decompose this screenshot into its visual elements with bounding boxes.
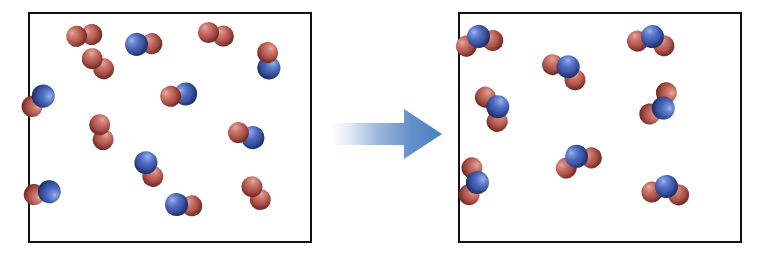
- reactants-box: [28, 12, 312, 243]
- oxygen-atom: [197, 21, 219, 43]
- reaction-arrow-icon: [332, 108, 442, 160]
- products-box: [458, 12, 742, 243]
- reaction-arrow: [332, 108, 442, 160]
- nitrogen-atom: [465, 169, 490, 194]
- reaction-diagram: [0, 0, 770, 264]
